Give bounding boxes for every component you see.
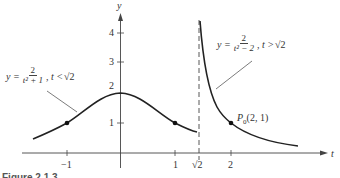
formula-right-fraction: 2 t² − 2	[232, 34, 256, 54]
formula-left-condition-value: √2	[64, 71, 75, 82]
formula-right-denominator: t² − 2	[232, 44, 256, 54]
x-tick-label-sqrt2: √2	[192, 160, 203, 170]
formula-right-condition: , t >	[257, 39, 274, 50]
x-tick-label-1: 1	[173, 160, 178, 170]
y-axis-arrow-icon	[118, 13, 123, 21]
formula-left-fraction: 2 t² + 1	[21, 66, 45, 86]
point-p0-coords: (2, 1)	[247, 112, 269, 123]
curve-left	[33, 93, 197, 139]
point-p0	[229, 121, 234, 126]
formula-left: y = 2 t² + 1 , t < √2	[6, 66, 75, 86]
t-axis-arrow-icon	[320, 151, 328, 156]
point-p0-label: P0(2, 1)	[237, 113, 268, 126]
formula-right-lhs: y =	[217, 39, 231, 50]
x-tick-label-2: 2	[228, 160, 233, 170]
x-tick-label-neg1: −1	[61, 160, 72, 170]
y-tick-label-1: 1	[109, 118, 114, 128]
y-tick-label-3: 3	[109, 57, 114, 67]
function-graph	[0, 0, 340, 178]
y-tick-label-4: 4	[109, 28, 114, 38]
leader-right	[216, 61, 252, 89]
y-axis-label: y	[117, 1, 121, 11]
formula-right-condition-value: √2	[275, 39, 286, 50]
point-minus1-1	[65, 121, 70, 126]
point-1-1	[173, 121, 178, 126]
y-tick-label-2: 2	[109, 81, 114, 91]
formula-right: y = 2 t² − 2 , t > √2	[217, 34, 286, 54]
figure-caption: Figure 2.1.3	[2, 172, 58, 178]
leader-left	[47, 91, 77, 112]
formula-left-lhs: y =	[6, 71, 20, 82]
formula-left-denominator: t² + 1	[21, 76, 45, 86]
t-axis-label: t	[331, 149, 334, 159]
formula-left-condition: , t <	[46, 71, 63, 82]
